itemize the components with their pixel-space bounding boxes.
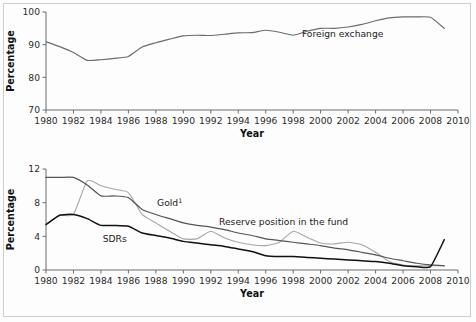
top-panel-y-ticklabel: 100 <box>22 6 40 17</box>
bottom-panel-x-ticklabel: 1998 <box>282 275 306 286</box>
bottom-panel-y-axis-title: Percentage <box>5 188 16 250</box>
top-panel-x-ticklabel: 2004 <box>364 115 388 126</box>
top-panel-x-ticklabel: 2006 <box>391 115 415 126</box>
bottom-panel-x-ticklabel: 2008 <box>419 275 443 286</box>
bottom-chart-panel: 0481219801982198419861988199019921994199… <box>0 155 476 322</box>
figure-container: 7080901001980198219841986198819901992199… <box>0 0 476 322</box>
bottom-panel-x-ticklabel: 1980 <box>34 275 58 286</box>
top-panel-x-ticklabel: 1984 <box>89 115 113 126</box>
bottom-panel-series-3-label: SDRs <box>103 233 127 244</box>
bottom-panel-x-axis-title: Year <box>239 288 264 299</box>
top-panel-y-axis-title: Percentage <box>5 30 16 92</box>
top-panel-series-1-line <box>46 17 444 61</box>
top-panel-x-ticklabel: 1986 <box>117 115 141 126</box>
top-panel-x-ticklabel: 2002 <box>336 115 359 126</box>
top-panel-y-ticklabel: 90 <box>28 39 40 50</box>
top-panel-x-ticklabel: 2008 <box>419 115 443 126</box>
top-panel-x-ticklabel: 1996 <box>254 115 278 126</box>
top-panel-x-ticklabel: 1988 <box>144 115 168 126</box>
top-panel-x-ticklabel: 1994 <box>227 115 251 126</box>
bottom-panel-x-ticklabel: 2002 <box>336 275 359 286</box>
bottom-panel-x-ticklabel: 1994 <box>227 275 251 286</box>
bottom-panel-series-1-label: Gold1 <box>157 197 182 208</box>
top-panel-x-ticklabel: 1982 <box>62 115 85 126</box>
bottom-panel-x-ticklabel: 1984 <box>89 275 113 286</box>
top-panel-x-ticklabel: 1998 <box>282 115 306 126</box>
bottom-panel-x-ticklabel: 1992 <box>199 275 222 286</box>
top-panel-x-ticklabel: 1990 <box>172 115 196 126</box>
bottom-panel-y-ticklabel: 12 <box>28 163 40 174</box>
top-panel-x-ticklabel: 2000 <box>309 115 333 126</box>
bottom-panel-x-ticklabel: 1996 <box>254 275 278 286</box>
bottom-panel-x-ticklabel: 2004 <box>364 275 388 286</box>
top-panel-svg: 7080901001980198219841986198819901992199… <box>0 0 476 155</box>
bottom-panel-x-ticklabel: 1988 <box>144 275 168 286</box>
top-panel-series-1-label: Foreign exchange <box>302 28 384 39</box>
top-chart-panel: 7080901001980198219841986198819901992199… <box>0 0 476 155</box>
bottom-panel-series-2-label: Reserve position in the fund <box>219 216 348 227</box>
bottom-panel-x-ticklabel: 1982 <box>62 275 85 286</box>
bottom-panel-y-ticklabel: 4 <box>34 231 40 242</box>
top-panel-x-axis-title: Year <box>239 128 264 139</box>
bottom-panel-x-ticklabel: 2010 <box>446 275 470 286</box>
top-panel-x-ticklabel: 1992 <box>199 115 222 126</box>
top-panel-x-ticklabel: 1980 <box>34 115 58 126</box>
bottom-panel-x-ticklabel: 2006 <box>391 275 415 286</box>
bottom-panel-x-ticklabel: 2000 <box>309 275 333 286</box>
bottom-panel-x-ticklabel: 1990 <box>172 275 196 286</box>
bottom-panel-svg: 0481219801982198419861988199019921994199… <box>0 155 476 322</box>
bottom-panel-x-ticklabel: 1986 <box>117 275 141 286</box>
bottom-panel-y-ticklabel: 8 <box>34 197 40 208</box>
top-panel-x-ticklabel: 2010 <box>446 115 470 126</box>
top-panel-y-ticklabel: 80 <box>28 72 40 83</box>
bottom-panel-series-1-label-superscript: 1 <box>178 197 182 204</box>
